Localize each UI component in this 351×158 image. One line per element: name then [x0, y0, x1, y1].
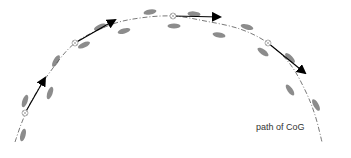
footprint [77, 40, 91, 50]
footprint [310, 98, 321, 112]
cog-marker-icon [72, 40, 78, 46]
footprint [256, 46, 270, 58]
direction-arrow [75, 20, 115, 43]
direction-arrow [25, 78, 45, 113]
footprint [50, 54, 61, 68]
cog-marker-icon [22, 110, 28, 116]
cog-marker-icon [170, 13, 176, 19]
footprint [45, 86, 54, 100]
footprint [212, 31, 226, 38]
footprint [19, 128, 27, 142]
direction-arrow [268, 43, 305, 73]
footprint [284, 83, 296, 97]
cog-marker-icon [265, 40, 271, 46]
footprint [117, 27, 131, 35]
footprint [143, 8, 157, 15]
cog-markers [22, 13, 271, 116]
footprint [20, 94, 29, 108]
gait-diagram [0, 0, 351, 158]
direction-arrows [25, 16, 305, 113]
footprint [168, 23, 181, 28]
footprint [284, 52, 297, 65]
path-of-cog-label: path of CoG [256, 122, 305, 132]
